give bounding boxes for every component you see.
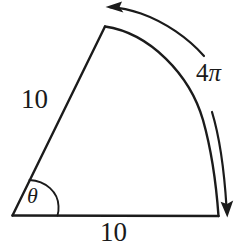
radius-bottom-label: 10 — [100, 219, 127, 245]
arc-length-number: 4 — [196, 59, 209, 86]
arc-length-label: 4π — [196, 60, 221, 85]
pi-symbol: π — [209, 59, 222, 86]
arrow-head-up-left-icon — [106, 2, 124, 13]
sector-diagram: 10 10 4π θ — [0, 0, 243, 245]
radius-left-label: 10 — [21, 86, 48, 113]
arc-length-arrow-curve — [212, 112, 227, 207]
radius-bottom-line — [13, 216, 219, 217]
sector-figure-svg — [0, 0, 243, 245]
sector-arc — [105, 27, 219, 217]
angle-theta-label: θ — [27, 185, 38, 207]
